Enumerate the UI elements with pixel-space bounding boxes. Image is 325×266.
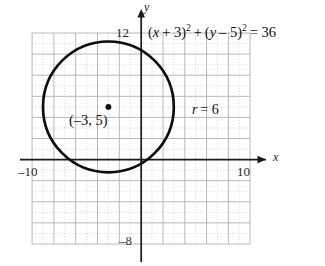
y-axis xyxy=(137,9,145,262)
radius-annotation: r = 6 xyxy=(192,103,219,117)
x-tick-label-10: 10 xyxy=(237,165,250,178)
eq-plus-3: + 3) xyxy=(162,24,186,40)
eq-plus-sign: + xyxy=(194,24,202,40)
eq-exponent-1: 2 xyxy=(186,23,191,33)
x-tick-label-minus-10: –10 xyxy=(18,165,38,178)
eq-exponent-2: 2 xyxy=(242,23,247,33)
y-tick-label-12: 12 xyxy=(116,26,129,39)
eq-x-variable: x xyxy=(153,24,159,40)
circle-equation-annotation: (x + 3)2 + (y – 5)2 = 36 xyxy=(148,25,276,40)
circle-graph-figure: y x 12 –8 –10 10 (–3, 5) r = 6 (x + 3)2 … xyxy=(0,0,325,266)
y-tick-label-minus-8: –8 xyxy=(119,234,132,247)
center-point-marker xyxy=(106,104,112,110)
x-axis-label: x xyxy=(273,151,278,163)
radius-variable: r xyxy=(192,102,197,117)
eq-minus-5: – 5) xyxy=(219,24,242,40)
center-point-label: (–3, 5) xyxy=(69,113,108,128)
radius-value: = 6 xyxy=(200,102,218,117)
eq-equals-36: = 36 xyxy=(250,24,276,40)
eq-y-variable: y xyxy=(210,24,216,40)
y-axis-label: y xyxy=(144,1,149,13)
